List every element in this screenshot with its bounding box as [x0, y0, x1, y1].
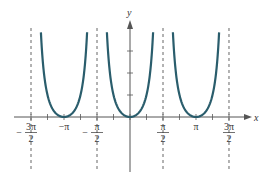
svg-text:2: 2	[226, 133, 231, 144]
svg-text:2: 2	[95, 133, 100, 144]
axis-labels: xy3π2−−ππ2−π2π3π2	[16, 7, 259, 144]
svg-text:2: 2	[161, 133, 166, 144]
tan-squared-graph: xy3π2−−ππ2−π2π3π2	[0, 0, 265, 176]
svg-text:−: −	[16, 127, 22, 138]
x-tick-label-fraction: π2	[157, 121, 169, 144]
x-tick-label: π	[193, 121, 198, 132]
y-axis-label: y	[126, 7, 132, 18]
svg-text:3π: 3π	[224, 121, 234, 132]
x-tick-label-fraction: 3π2	[223, 121, 235, 144]
svg-text:π: π	[94, 121, 99, 132]
axes	[14, 20, 252, 172]
x-axis-arrow-icon	[244, 114, 252, 120]
x-tick-label-fraction: π2−	[82, 121, 103, 144]
x-tick-label: −π	[59, 121, 70, 132]
curve-branch	[173, 32, 219, 117]
curve-branch	[41, 32, 87, 117]
svg-text:π: π	[160, 121, 165, 132]
svg-text:3π: 3π	[26, 121, 36, 132]
svg-text:−: −	[82, 127, 88, 138]
x-axis-label: x	[253, 112, 259, 123]
y-axis-arrow-icon	[127, 20, 133, 29]
svg-text:2: 2	[29, 133, 34, 144]
x-tick-label-fraction: 3π2−	[16, 121, 37, 144]
